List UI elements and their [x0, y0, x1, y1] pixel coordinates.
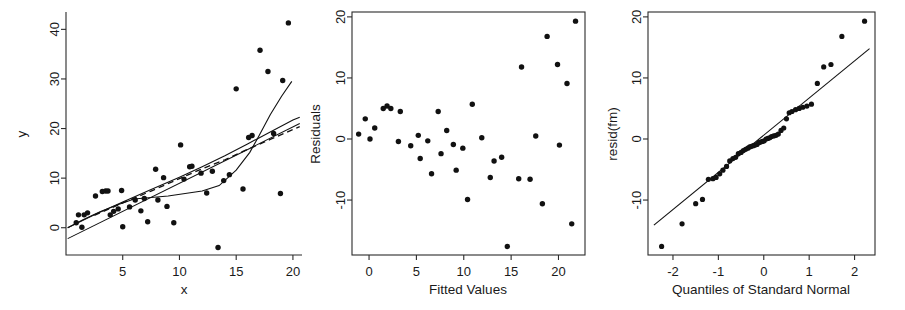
x-tick-label: 2: [851, 264, 858, 279]
data-point: [74, 220, 79, 225]
panel-2-svg: 05101520-1001020 Fitted Values Residuals: [310, 0, 605, 310]
data-point: [286, 20, 291, 25]
data-point: [76, 212, 81, 217]
data-point: [821, 64, 826, 69]
data-point: [804, 103, 809, 108]
data-point: [519, 64, 524, 69]
data-point: [451, 142, 456, 147]
y-tick-label: 0: [48, 224, 63, 231]
data-point: [527, 177, 532, 182]
data-point: [119, 188, 124, 193]
x-tick-label: 20: [551, 264, 565, 279]
x-tick-label: 15: [504, 264, 518, 279]
data-point: [265, 69, 270, 74]
data-point: [862, 19, 867, 24]
data-point: [488, 175, 493, 180]
panel-2-ticks: [347, 17, 558, 260]
data-point: [429, 171, 434, 176]
data-point: [460, 145, 465, 150]
data-point: [706, 177, 711, 182]
smooth-curve-solid: [68, 81, 292, 227]
data-point: [198, 170, 203, 175]
panel-3-x-axis-label: Quantiles of Standard Normal: [672, 282, 850, 297]
data-point: [505, 244, 510, 249]
data-point: [540, 201, 545, 206]
data-point: [363, 116, 368, 121]
data-point: [408, 143, 413, 148]
data-point: [444, 128, 449, 133]
y-tick-label: 20: [334, 10, 349, 24]
panel-3-data-points: [659, 19, 867, 249]
x-tick-label: 10: [457, 264, 471, 279]
data-point: [569, 221, 574, 226]
data-point: [227, 172, 232, 177]
panel-2-data-points: [356, 18, 578, 249]
data-point: [257, 47, 262, 52]
panel-1-y-axis-label: y: [14, 130, 29, 137]
x-tick-label: -2: [667, 264, 679, 279]
data-point: [171, 220, 176, 225]
data-point: [659, 244, 664, 249]
data-point: [356, 131, 361, 136]
y-tick-label: 10: [334, 71, 349, 85]
x-tick-label: 10: [172, 264, 186, 279]
data-point: [398, 109, 403, 114]
x-tick-label: 20: [286, 264, 300, 279]
data-point: [470, 101, 475, 106]
data-point: [700, 197, 705, 202]
y-tick-label: 20: [48, 121, 63, 135]
data-point: [491, 158, 496, 163]
data-point: [153, 167, 158, 172]
panel-3-axis-frame: [648, 12, 875, 255]
data-point: [233, 86, 238, 91]
data-point: [215, 245, 220, 250]
x-tick-label: 5: [119, 264, 126, 279]
data-point: [573, 18, 578, 23]
x-tick-label: 5: [413, 264, 420, 279]
data-point: [828, 62, 833, 67]
y-tick-label: -10: [630, 191, 645, 210]
qq-reference-line: [654, 49, 870, 225]
data-point: [396, 139, 401, 144]
data-point: [367, 136, 372, 141]
y-tick-label: 0: [334, 135, 349, 142]
y-tick-label: 20: [630, 10, 645, 24]
y-tick-label: 10: [48, 171, 63, 185]
data-point: [85, 210, 90, 215]
panel-1-x-axis-label: x: [181, 282, 188, 297]
data-point: [533, 133, 538, 138]
data-point: [120, 224, 125, 229]
panel-2-axis-frame: [352, 12, 585, 255]
panel-3-ticks: [643, 17, 855, 260]
smooth-curve-dashed: [94, 127, 299, 216]
data-point: [564, 81, 569, 86]
data-point: [79, 225, 84, 230]
data-point: [138, 208, 143, 213]
data-point: [839, 34, 844, 39]
x-tick-label: -1: [713, 264, 725, 279]
data-point: [438, 151, 443, 156]
data-point: [418, 156, 423, 161]
data-point: [127, 204, 132, 209]
data-point: [105, 188, 110, 193]
data-point: [210, 168, 215, 173]
data-point: [693, 201, 698, 206]
panel-2-y-axis-label: Residuals: [310, 104, 323, 164]
data-point: [271, 131, 276, 136]
data-point: [425, 138, 430, 143]
panel-1-axes: 5101520010203040: [48, 12, 303, 279]
panel-1-data-points: [74, 20, 292, 250]
panel-scatter-xy: 5101520010203040 x y: [0, 0, 310, 310]
y-tick-label: 30: [48, 72, 63, 86]
data-point: [93, 193, 98, 198]
panel-3-svg: -2-1012-1001020 Quantiles of Standard No…: [605, 0, 905, 310]
data-point: [388, 106, 393, 111]
data-point: [221, 178, 226, 183]
data-point: [280, 78, 285, 83]
data-point: [479, 135, 484, 140]
data-point: [145, 219, 150, 224]
x-tick-label: 1: [806, 264, 813, 279]
data-point: [781, 125, 786, 130]
data-point: [557, 142, 562, 147]
data-point: [555, 62, 560, 67]
